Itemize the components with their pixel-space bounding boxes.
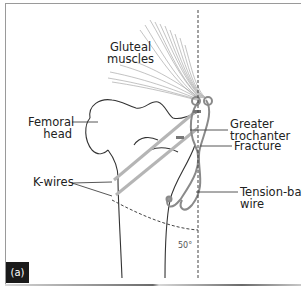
label-gluteal-muscles: Gluteal muscles [107,41,154,65]
angle-arc [112,200,198,230]
label-k-wires: K-wires [33,176,74,188]
label-fracture: Fracture [234,140,281,152]
label-femoral-head: Femoral head [28,116,72,140]
tension-band-wire-icon [167,97,213,209]
k-wires-icon [114,112,198,195]
label-angle: 50° [178,240,192,252]
panel-label-badge: (a) [6,262,29,283]
label-tension-band-wire: Tension-band wire [240,186,302,210]
leader-lines [72,122,238,196]
